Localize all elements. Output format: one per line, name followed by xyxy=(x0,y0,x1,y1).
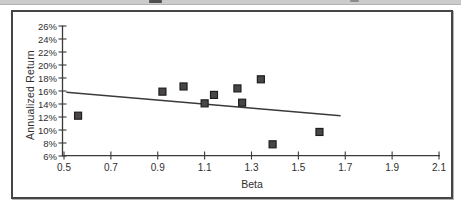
x-tick-label: 1.3 xyxy=(245,162,259,173)
x-tick-label: 2.1 xyxy=(432,162,446,173)
data-point xyxy=(234,85,241,92)
data-point xyxy=(159,88,166,95)
x-tick-label: 1.1 xyxy=(198,162,212,173)
x-tick-label: 1.5 xyxy=(291,162,305,173)
data-point xyxy=(180,83,187,90)
x-tick-label: 1.9 xyxy=(385,162,399,173)
data-point xyxy=(75,112,82,119)
y-tick-label: 16% xyxy=(38,86,58,97)
y-tick-label: 20% xyxy=(38,60,58,71)
y-tick-label: 12% xyxy=(38,112,58,123)
y-tick-label: 26% xyxy=(38,21,58,32)
y-tick-label: 22% xyxy=(38,47,58,58)
data-point xyxy=(269,141,276,148)
data-point xyxy=(201,100,208,107)
y-tick-label: 18% xyxy=(38,73,58,84)
x-axis-title: Beta xyxy=(202,178,302,190)
x-tick-label: 0.7 xyxy=(104,162,118,173)
data-point xyxy=(257,76,264,83)
y-tick-label: 10% xyxy=(38,125,58,136)
x-tick-label: 1.7 xyxy=(338,162,352,173)
x-tick-label: 0.9 xyxy=(151,162,165,173)
data-point xyxy=(211,91,218,98)
y-axis-title: Annualized Return xyxy=(24,39,38,151)
x-tick-label: 0.5 xyxy=(57,162,71,173)
y-tick-label: 8% xyxy=(43,138,57,149)
y-tick-label: 14% xyxy=(38,99,58,110)
data-point xyxy=(316,128,323,135)
data-point xyxy=(239,99,246,106)
y-tick-label: 6% xyxy=(43,151,57,162)
y-tick-label: 24% xyxy=(38,34,58,45)
